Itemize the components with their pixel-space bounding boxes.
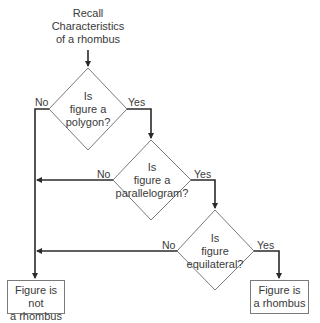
arrow-equilateral-yes [254,251,279,278]
parallelogram-yes-label: Yes [194,168,211,180]
decision-line: Is [106,161,198,174]
start-line-1: Recall [38,7,138,20]
outcome-rhombus-label: Figure is a rhombus [250,284,309,310]
outcome-line: a rhombus [7,310,65,323]
decision-equilateral-label: Is figure equilateral? [175,232,255,271]
arrow-polygon-yes [127,109,151,138]
decision-line: figure a [106,174,198,187]
outcome-line: Figure is [250,284,309,297]
decision-line: polygon? [48,116,128,129]
polygon-no-label: No [35,96,48,108]
arrow-polygon-no [35,109,49,278]
decision-line: Is [175,232,255,245]
parallelogram-no-label: No [97,168,110,180]
equilateral-no-label: No [162,239,175,251]
decision-line: equilateral? [175,258,255,271]
decision-line: figure [175,245,255,258]
start-line-3: of a rhombus [38,33,138,46]
outcome-line: a rhombus [250,297,309,310]
start-line-2: Characteristics [38,20,138,33]
outcome-line: Figure is not [7,284,65,310]
start-label: Recall Characteristics of a rhombus [38,7,138,46]
equilateral-yes-label: Yes [257,239,274,251]
decision-line: parallelogram? [106,187,198,200]
decision-line: figure a [48,103,128,116]
polygon-yes-label: Yes [128,96,145,108]
outcome-not-rhombus-label: Figure is not a rhombus [7,284,65,323]
decision-polygon-label: Is figure a polygon? [48,90,128,129]
decision-line: Is [48,90,128,103]
decision-parallelogram-label: Is figure a parallelogram? [106,161,198,200]
